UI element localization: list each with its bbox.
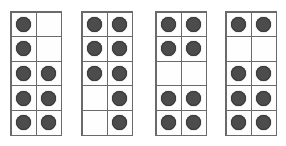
dot-marker	[161, 115, 176, 130]
grid-cell	[182, 111, 206, 135]
grid-cell	[108, 111, 132, 135]
dot-marker	[186, 41, 201, 56]
grid-cell	[157, 62, 181, 86]
dot-marker	[112, 115, 127, 130]
grid-3	[155, 11, 207, 136]
grid-cell	[157, 111, 181, 135]
grid-cell	[108, 37, 132, 61]
grid-cell	[83, 86, 107, 110]
dot-marker	[186, 115, 201, 130]
dot-marker	[231, 91, 246, 106]
grid-cell	[37, 37, 61, 61]
grid-cell	[108, 86, 132, 110]
dot-marker	[161, 17, 176, 32]
dot-marker	[16, 17, 31, 32]
dot-marker	[41, 66, 56, 81]
grid-cell	[12, 62, 36, 86]
grid-cell	[227, 62, 251, 86]
dot-marker	[231, 66, 246, 81]
grid-2	[81, 11, 133, 136]
grid-cell	[157, 13, 181, 37]
grid-cell	[12, 111, 36, 135]
grid-cell	[12, 37, 36, 61]
grid-cell	[108, 62, 132, 86]
grid-cell	[83, 62, 107, 86]
grid-cell	[12, 13, 36, 37]
dot-marker	[231, 17, 246, 32]
grid-cell	[182, 86, 206, 110]
grid-cell	[157, 37, 181, 61]
grid-cell	[252, 111, 276, 135]
grid-cell	[108, 13, 132, 37]
grid-cell	[83, 111, 107, 135]
dot-marker	[112, 17, 127, 32]
grid-cell	[227, 111, 251, 135]
grid-cell	[252, 62, 276, 86]
grid-cell	[157, 86, 181, 110]
grid-cell	[252, 13, 276, 37]
grid-cell	[37, 111, 61, 135]
grid-cell	[182, 37, 206, 61]
grid-cell	[83, 13, 107, 37]
grid-cell	[37, 13, 61, 37]
grid-cell	[182, 62, 206, 86]
grid-1	[10, 11, 62, 136]
grid-cell	[37, 62, 61, 86]
grid-cell	[227, 86, 251, 110]
figure-canvas	[0, 0, 286, 146]
dot-marker	[231, 115, 246, 130]
dot-marker	[16, 115, 31, 130]
dot-marker	[161, 41, 176, 56]
grid-cell	[83, 37, 107, 61]
grid-cell	[227, 13, 251, 37]
dot-marker	[112, 41, 127, 56]
dot-marker	[16, 91, 31, 106]
dot-marker	[87, 17, 102, 32]
grid-4	[225, 11, 277, 136]
dot-marker	[186, 17, 201, 32]
dot-marker	[16, 66, 31, 81]
grid-cell	[252, 86, 276, 110]
grid-cell	[227, 37, 251, 61]
dot-marker	[16, 41, 31, 56]
dot-marker	[41, 91, 56, 106]
dot-marker	[112, 91, 127, 106]
dot-marker	[256, 115, 271, 130]
grid-cell	[12, 86, 36, 110]
dot-marker	[186, 91, 201, 106]
grid-cell	[252, 37, 276, 61]
dot-marker	[87, 66, 102, 81]
dot-marker	[256, 17, 271, 32]
dot-marker	[256, 66, 271, 81]
grid-cell	[182, 13, 206, 37]
grid-cell	[37, 86, 61, 110]
dot-marker	[112, 66, 127, 81]
dot-marker	[256, 91, 271, 106]
dot-marker	[161, 91, 176, 106]
dot-marker	[87, 41, 102, 56]
dot-marker	[41, 115, 56, 130]
